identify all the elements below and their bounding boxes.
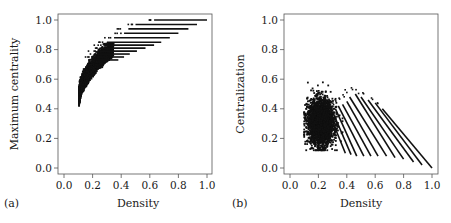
y-tick-label: 0.0 [35, 162, 52, 174]
x-axis-ticks-b: 0.00.20.40.60.81.0 [282, 174, 441, 191]
diagonal-streak [368, 100, 413, 162]
y-tick-label: 1.0 [261, 14, 278, 26]
panel-label-a: (a) [4, 197, 19, 210]
scatter-points-a [78, 19, 207, 107]
y-axis-ticks-b: 0.00.20.40.60.81.0 [261, 14, 284, 174]
diagonal-streak [375, 103, 422, 165]
panel-label-b: (b) [232, 197, 248, 210]
scatter-points-b [303, 81, 432, 168]
y-tick-label: 0.6 [35, 73, 52, 85]
y-axis-title-b: Centralization [234, 54, 247, 133]
x-tick-label: 0.4 [113, 179, 130, 191]
x-tick-label: 1.0 [199, 179, 216, 191]
y-tick-label: 0.2 [35, 132, 52, 144]
y-tick-label: 0.8 [261, 43, 278, 55]
x-axis-title-a: Density [117, 197, 160, 210]
y-tick-label: 1.0 [35, 14, 52, 26]
y-tick-label: 0.4 [261, 102, 278, 114]
y-tick-label: 0.0 [261, 162, 278, 174]
x-tick-label: 0.4 [338, 179, 355, 191]
x-tick-label: 0.6 [367, 179, 384, 191]
panel-a: 0.00.20.40.60.81.0 0.00.20.40.60.81.0 De… [4, 14, 215, 211]
x-tick-label: 0.6 [141, 179, 158, 191]
y-tick-label: 0.4 [35, 102, 52, 114]
y-tick-label: 0.2 [261, 132, 278, 144]
y-axis-ticks-a: 0.00.20.40.60.81.0 [35, 14, 58, 174]
x-tick-label: 0.8 [395, 179, 412, 191]
x-tick-label: 0.2 [84, 179, 101, 191]
x-tick-label: 0.0 [56, 179, 73, 191]
x-axis-ticks-a: 0.00.20.40.60.81.0 [56, 174, 216, 191]
x-tick-label: 1.0 [424, 179, 441, 191]
y-axis-title-a: Maximum centrality [8, 37, 21, 150]
y-tick-label: 0.6 [261, 73, 278, 85]
diagonal-streak [347, 101, 378, 156]
diagonal-streak [335, 109, 356, 156]
figure-canvas: 0.00.20.40.60.81.0 0.00.20.40.60.81.0 De… [0, 0, 451, 223]
y-tick-label: 0.8 [35, 43, 52, 55]
x-tick-label: 0.8 [170, 179, 187, 191]
x-axis-title-b: Density [340, 197, 383, 210]
x-tick-label: 0.2 [310, 179, 327, 191]
panel-b: 0.00.20.40.60.81.0 0.00.20.40.60.81.0 De… [232, 14, 440, 211]
x-tick-label: 0.0 [282, 179, 299, 191]
